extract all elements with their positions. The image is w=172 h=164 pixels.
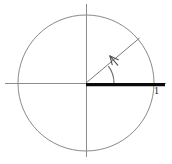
angle-arc (108, 66, 114, 83)
unit-length-label: 1 (154, 86, 159, 96)
unit-circle-canvas (0, 0, 172, 164)
unit-circle-figure: 1 (0, 0, 172, 164)
